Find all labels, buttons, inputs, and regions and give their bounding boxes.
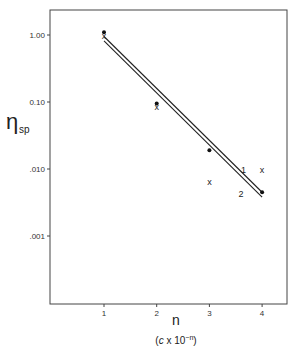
- x-tick-label: 2: [154, 309, 159, 318]
- chart-canvas: 1.000.10.010.001 1234 xxxx 12 η sp n (c …: [0, 0, 300, 354]
- y-tick-label: .010: [29, 165, 45, 174]
- y-axis-label: η sp: [6, 109, 30, 135]
- x-tick-label: 1: [102, 309, 107, 318]
- line-label: 1: [241, 165, 246, 175]
- cross-marker: x: [102, 31, 107, 41]
- svg-text:η: η: [6, 109, 18, 134]
- fit-line-1: [104, 36, 262, 192]
- cross-marker: x: [260, 165, 265, 175]
- y-axis-ticks: 1.000.10.010.001: [29, 31, 50, 241]
- line-label: 2: [238, 189, 243, 199]
- x-tick-label: 3: [207, 309, 212, 318]
- cross-marker: x: [207, 177, 212, 187]
- fit-line-2: [104, 41, 262, 197]
- plot-frame: [50, 10, 287, 304]
- dot-marker: [260, 190, 264, 194]
- dot-marker: [207, 148, 211, 152]
- y-tick-label: .001: [29, 232, 45, 241]
- y-tick-label: 0.10: [29, 98, 45, 107]
- x-axis-label: n (c x 10−n): [155, 312, 196, 346]
- x-axis-ticks: 1234: [102, 304, 265, 318]
- fit-lines: [104, 36, 262, 197]
- x-tick-label: 4: [260, 309, 265, 318]
- svg-text:sp: sp: [19, 124, 30, 135]
- cross-marker: x: [154, 102, 159, 112]
- y-tick-label: 1.00: [29, 31, 45, 40]
- svg-text:n: n: [172, 312, 180, 328]
- svg-text:(c x 10−n): (c x 10−n): [155, 334, 196, 346]
